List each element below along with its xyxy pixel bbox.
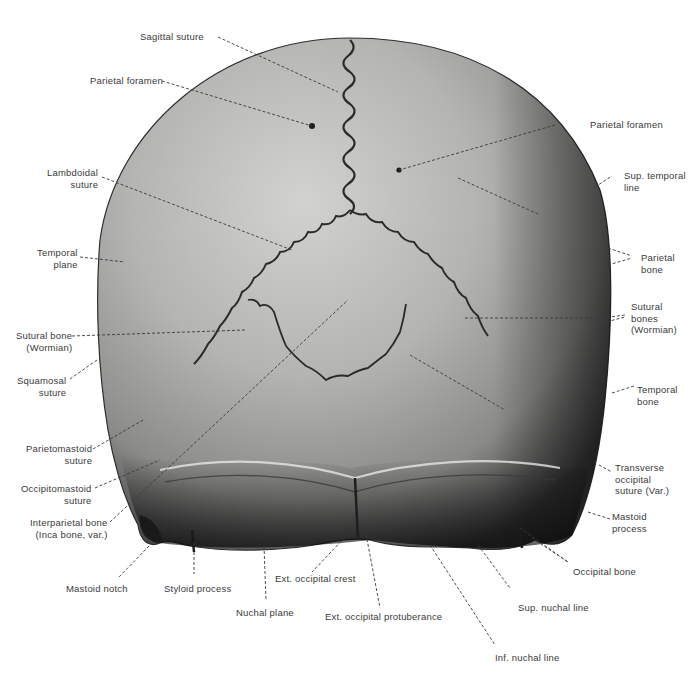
label-parietal-foramen-right: Parietal foramen xyxy=(590,119,663,131)
label-occipitomastoid-suture: Occipitomastoid suture xyxy=(21,483,92,506)
label-inf-nuchal-line: Inf. nuchal line xyxy=(495,652,559,664)
label-ext-occipital-protuberance: Ext. occipital protuberance xyxy=(325,611,442,623)
label-sup-nuchal-line: Sup. nuchal line xyxy=(518,602,589,614)
label-sagittal-suture: Sagittal suture xyxy=(140,31,204,43)
label-mastoid-notch: Mastoid notch xyxy=(66,583,128,595)
label-sutural-bones-wormian: Sutural bones (Wormian) xyxy=(631,301,677,336)
label-interparietal-bone: Interparietal bone (Inca bone, var.) xyxy=(30,517,108,540)
label-sup-temporal-line: Sup. temporal line xyxy=(624,170,686,193)
label-nuchal-plane: Nuchal plane xyxy=(236,607,294,619)
skull-posterior-view-figure: Sagittal suture Parietal foramen Lambdoi… xyxy=(0,0,697,677)
label-squamosal-suture: Squamosal suture xyxy=(17,375,66,398)
label-parietal-bone: Parietal bone xyxy=(641,252,675,275)
label-temporal-plane: Temporal plane xyxy=(37,247,78,270)
label-parietal-foramen-left: Parietal foramen xyxy=(90,75,163,87)
label-sutural-bone-wormian: Sutural bone (Wormian) xyxy=(16,330,72,353)
label-parietomastoid-suture: Parietomastoid suture xyxy=(26,443,92,466)
label-lambdoidal-suture: Lambdoidal suture xyxy=(47,167,98,190)
label-transverse-occipital-suture: Transverse occipital suture (Var.) xyxy=(615,462,669,497)
label-styloid-process: Styloid process xyxy=(164,583,231,595)
label-mastoid-process: Mastoid process xyxy=(612,511,647,534)
label-temporal-bone: Temporal bone xyxy=(637,384,678,407)
label-occipital-bone: Occipital bone xyxy=(573,566,636,578)
label-ext-occipital-crest: Ext. occipital crest xyxy=(275,573,356,585)
